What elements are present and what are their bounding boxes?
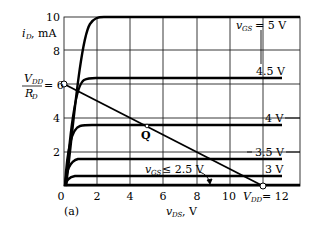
svg-text:GS: GS	[242, 25, 253, 33]
mosfet-characteristic-chart: 10 8 4 2 0 2 4 6 8 10 V DD = 12 i D , mA…	[0, 0, 311, 234]
y-tick-10: 10	[46, 11, 60, 24]
svg-text:= 6: = 6	[44, 79, 64, 92]
x-tick-10: 10	[222, 190, 236, 203]
svg-text:i: i	[22, 27, 26, 40]
y-tick-8: 8	[53, 45, 60, 58]
vgs-3-5v-label: 3.5 V	[255, 146, 285, 159]
q-point-marker	[145, 124, 149, 128]
svg-text:≤ 2.5 V: ≤ 2.5 V	[162, 163, 205, 176]
x-tick-4: 4	[127, 190, 134, 203]
svg-text:DS: DS	[171, 211, 183, 219]
vdd-label: V DD = 12	[243, 190, 289, 204]
vgs-2-5v-label: v GS ≤ 2.5 V	[145, 163, 205, 177]
y-tick-4: 4	[53, 112, 60, 125]
x-tick-6: 6	[160, 190, 167, 203]
svg-text:DD: DD	[250, 196, 263, 204]
curve-vgs-5v	[66, 17, 300, 186]
vgs-3v-label: 3 V	[265, 163, 284, 176]
vgs-5v-label: v GS = 5 V	[236, 19, 287, 33]
x-tick-0: 0	[58, 190, 65, 203]
vdd-rd-label: V DD R D = 6	[22, 72, 64, 101]
svg-text:D: D	[31, 93, 38, 101]
x-tick-8: 8	[194, 190, 201, 203]
svg-text:DD: DD	[31, 78, 44, 86]
figure-caption: (a)	[64, 205, 79, 218]
x-axis-label: v DS , V	[166, 205, 198, 219]
svg-text:, V: , V	[182, 205, 198, 218]
x-tick-2: 2	[94, 190, 101, 203]
q-point-label: Q	[141, 129, 151, 142]
svg-text:= 5 V: = 5 V	[255, 19, 287, 32]
vgs-4v-label: 4 V	[265, 112, 284, 125]
svg-text:= 12: = 12	[262, 190, 289, 203]
y-axis-label: i D , mA	[22, 27, 57, 41]
svg-text:, mA: , mA	[31, 27, 57, 40]
y-tick-2: 2	[53, 146, 60, 159]
svg-text:GS: GS	[151, 169, 162, 177]
vdd-point	[260, 183, 266, 189]
vgs-4-5v-label: 4.5 V	[256, 65, 286, 78]
